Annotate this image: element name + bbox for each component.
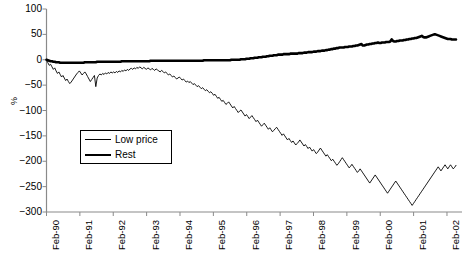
chart-legend: Low price Rest <box>80 130 172 164</box>
legend-swatch-rest <box>85 154 111 156</box>
legend-label-low-price: Low price <box>115 135 158 145</box>
chart-container: % 100500−50−100−150−200−250−300 Feb-90Fe… <box>0 0 469 259</box>
plot-area <box>0 0 469 259</box>
legend-item-rest: Rest <box>85 148 171 161</box>
legend-item-low-price: Low price <box>85 133 171 146</box>
series-line <box>47 34 457 62</box>
legend-swatch-low-price <box>85 139 111 140</box>
legend-label-rest: Rest <box>115 150 136 160</box>
data-series <box>47 34 457 205</box>
